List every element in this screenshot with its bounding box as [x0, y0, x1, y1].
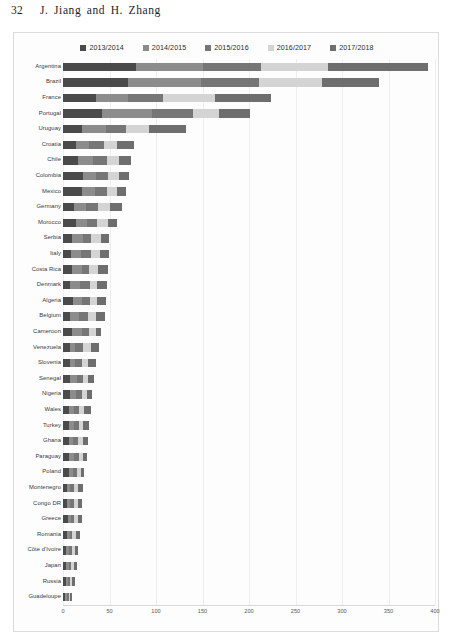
bar-segment[interactable]: [63, 203, 74, 211]
bar-segment[interactable]: [108, 172, 119, 180]
bar-segment[interactable]: [88, 375, 94, 383]
bar-segment[interactable]: [117, 187, 126, 195]
bar-segment[interactable]: [76, 531, 80, 539]
bar-segment[interactable]: [215, 94, 272, 102]
bar-segment[interactable]: [78, 499, 82, 507]
bar-segment[interactable]: [63, 219, 76, 227]
bar-segment[interactable]: [80, 281, 90, 289]
bar-row[interactable]: Brazil: [14, 75, 440, 91]
bar-segment[interactable]: [83, 437, 89, 445]
bar-segment[interactable]: [83, 343, 91, 351]
bar-segment[interactable]: [93, 156, 107, 164]
bar-segment[interactable]: [82, 297, 90, 305]
bar-row[interactable]: Algeria: [14, 293, 440, 309]
bar-row[interactable]: Ghana: [14, 433, 440, 449]
bar-segment[interactable]: [78, 156, 93, 164]
bar-row[interactable]: Venezuela: [14, 340, 440, 356]
bar-segment[interactable]: [102, 109, 152, 117]
bar-segment[interactable]: [119, 172, 129, 180]
bar-segment[interactable]: [82, 328, 89, 336]
bar-segment[interactable]: [108, 219, 117, 227]
bar-segment[interactable]: [96, 172, 107, 180]
bar-row[interactable]: Turkey: [14, 418, 440, 434]
bar-segment[interactable]: [106, 125, 126, 133]
bar-row[interactable]: Japan: [14, 558, 440, 574]
bar-row[interactable]: Guadeloupe: [14, 589, 440, 605]
bar-row[interactable]: Chile: [14, 153, 440, 169]
bar-segment[interactable]: [328, 63, 428, 71]
bar-segment[interactable]: [78, 515, 82, 523]
bar-row[interactable]: Belgium: [14, 309, 440, 325]
bar-segment[interactable]: [136, 63, 203, 71]
bar-segment[interactable]: [126, 125, 148, 133]
bar-segment[interactable]: [104, 141, 117, 149]
bar-segment[interactable]: [79, 312, 88, 320]
bar-segment[interactable]: [128, 78, 201, 86]
bar-segment[interactable]: [63, 328, 72, 336]
bar-segment[interactable]: [63, 156, 78, 164]
bar-segment[interactable]: [193, 109, 219, 117]
bar-segment[interactable]: [88, 312, 96, 320]
bar-segment[interactable]: [119, 156, 131, 164]
bar-segment[interactable]: [87, 219, 97, 227]
bar-segment[interactable]: [63, 109, 102, 117]
bar-segment[interactable]: [96, 94, 128, 102]
bar-segment[interactable]: [75, 546, 78, 554]
bar-segment[interactable]: [63, 234, 72, 242]
bar-segment[interactable]: [83, 453, 87, 461]
bar-segment[interactable]: [90, 281, 97, 289]
bar-segment[interactable]: [97, 281, 106, 289]
bar-segment[interactable]: [98, 203, 110, 211]
bar-row[interactable]: Uruguay: [14, 121, 440, 137]
bar-segment[interactable]: [70, 281, 79, 289]
bar-segment[interactable]: [97, 219, 107, 227]
bar-segment[interactable]: [97, 297, 105, 305]
bar-segment[interactable]: [70, 375, 77, 383]
legend-item-2015-2016[interactable]: 2015/2016: [205, 44, 248, 52]
bar-row[interactable]: Congo DR: [14, 496, 440, 512]
bar-segment[interactable]: [83, 172, 96, 180]
bar-segment[interactable]: [128, 94, 163, 102]
bar-segment[interactable]: [107, 156, 119, 164]
bar-segment[interactable]: [91, 234, 101, 242]
bar-row[interactable]: Italy: [14, 246, 440, 262]
legend-item-2016-2017[interactable]: 2016/2017: [268, 44, 311, 52]
bar-segment[interactable]: [63, 187, 82, 195]
bar-row[interactable]: Slovenia: [14, 355, 440, 371]
bar-row[interactable]: Greece: [14, 511, 440, 527]
bar-segment[interactable]: [203, 63, 261, 71]
bar-segment[interactable]: [83, 234, 91, 242]
bar-segment[interactable]: [89, 141, 104, 149]
bar-segment[interactable]: [101, 234, 109, 242]
bar-row[interactable]: Costa Rica: [14, 262, 440, 278]
bar-segment[interactable]: [261, 63, 328, 71]
bar-segment[interactable]: [87, 390, 92, 398]
bar-segment[interactable]: [63, 125, 82, 133]
bar-row[interactable]: Colombia: [14, 168, 440, 184]
bar-segment[interactable]: [149, 125, 186, 133]
bar-row[interactable]: Mexico: [14, 184, 440, 200]
bar-row[interactable]: Argentina: [14, 59, 440, 75]
bar-segment[interactable]: [63, 265, 72, 273]
bar-segment[interactable]: [219, 109, 250, 117]
bar-row[interactable]: Nigeria: [14, 387, 440, 403]
bar-segment[interactable]: [75, 343, 82, 351]
bar-segment[interactable]: [63, 172, 83, 180]
bar-segment[interactable]: [63, 390, 70, 398]
bar-segment[interactable]: [70, 593, 72, 601]
bar-segment[interactable]: [78, 484, 83, 492]
bar-segment[interactable]: [82, 265, 89, 273]
bar-segment[interactable]: [152, 109, 193, 117]
bar-row[interactable]: Croatia: [14, 137, 440, 153]
bar-segment[interactable]: [88, 359, 95, 367]
bar-segment[interactable]: [72, 577, 75, 585]
bar-segment[interactable]: [259, 78, 322, 86]
legend-item-2013-2014[interactable]: 2013/2014: [80, 44, 123, 52]
bar-segment[interactable]: [63, 297, 73, 305]
bar-segment[interactable]: [98, 265, 107, 273]
bar-row[interactable]: Senegal: [14, 371, 440, 387]
bar-segment[interactable]: [91, 343, 99, 351]
legend-item-2014-2015[interactable]: 2014/2015: [143, 44, 186, 52]
bar-row[interactable]: Wales: [14, 402, 440, 418]
bar-segment[interactable]: [82, 187, 95, 195]
